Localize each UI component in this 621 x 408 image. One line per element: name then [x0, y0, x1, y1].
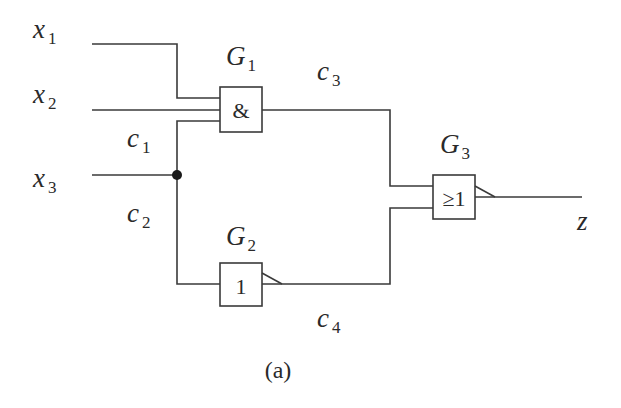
- gate-g3-inversion-icon: [475, 186, 495, 197]
- gate-g1-symbol: &: [232, 98, 249, 123]
- wire-c1: [177, 121, 220, 175]
- fanout-junction-dot: [172, 170, 182, 180]
- wire-c4: [262, 208, 433, 284]
- gate-g2-symbol: 1: [236, 274, 247, 299]
- label-c2: c2: [127, 198, 150, 232]
- label-x2: x2: [32, 79, 56, 113]
- label-c1: c1: [127, 123, 150, 157]
- wire-x1: [92, 44, 220, 98]
- label-g2: G2: [226, 221, 256, 255]
- gate-g3-symbol: ≥1: [442, 186, 465, 211]
- label-x1: x1: [32, 14, 56, 48]
- label-g3: G3: [440, 129, 470, 163]
- label-g1: G1: [226, 41, 256, 75]
- figure-caption: (a): [265, 357, 292, 383]
- gate-g1-and: &: [220, 87, 262, 132]
- wire-c3: [262, 110, 433, 186]
- label-z: z: [576, 206, 588, 236]
- gate-g2-inversion-icon: [262, 273, 282, 284]
- label-c3: c3: [317, 56, 340, 90]
- label-c4: c4: [317, 303, 341, 337]
- label-x3: x3: [32, 163, 56, 197]
- logic-circuit-diagram: & 1 ≥1 x1 x2 x3 c1 c2 c3 c4 G1 G2: [0, 0, 621, 408]
- wire-c2: [177, 175, 220, 284]
